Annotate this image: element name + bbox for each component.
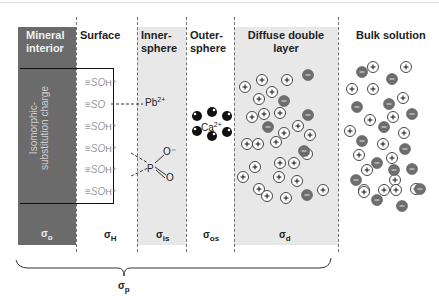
sigma-is: σis (156, 229, 170, 243)
sigma-h: σH (104, 229, 117, 243)
diagram-overlay (0, 0, 439, 298)
sigma-os: σos (203, 229, 219, 243)
water-molecules (192, 107, 232, 141)
sigma-p: σp (118, 280, 130, 294)
total-charge-brace (16, 258, 331, 276)
sigma-d: σd (279, 229, 291, 243)
sigma-o: σo (41, 228, 53, 242)
